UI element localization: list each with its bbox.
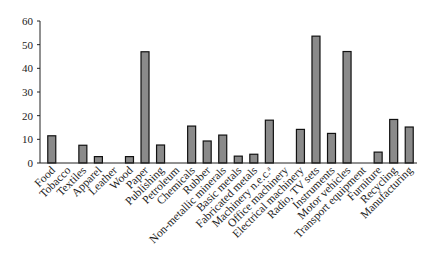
- bar: [48, 136, 56, 163]
- bar: [203, 141, 211, 163]
- bar: [125, 157, 133, 163]
- bar: [79, 145, 87, 163]
- bar: [265, 120, 273, 163]
- bar: [219, 135, 227, 163]
- bar: [405, 127, 413, 163]
- bar: [312, 36, 320, 163]
- y-tick-label: 0: [28, 157, 34, 169]
- bar: [328, 133, 336, 163]
- bar: [141, 52, 149, 163]
- x-axis-labels: FoodTobaccoTextilesApparelLeatherWoodPap…: [32, 163, 416, 245]
- y-tick-label: 50: [22, 39, 34, 51]
- y-axis: 0102030405060: [22, 15, 40, 169]
- y-tick-label: 10: [22, 133, 34, 145]
- bar: [188, 126, 196, 163]
- bar: [94, 157, 102, 163]
- bar: [157, 145, 165, 163]
- bar: [296, 129, 304, 163]
- y-tick-label: 60: [22, 15, 34, 27]
- y-tick-label: 40: [22, 62, 34, 74]
- bars: [48, 36, 413, 163]
- y-tick-label: 20: [22, 110, 34, 122]
- bar: [234, 156, 242, 163]
- bar: [343, 52, 351, 163]
- bar: [390, 119, 398, 163]
- bar: [250, 154, 258, 163]
- y-tick-label: 30: [22, 86, 34, 98]
- bar-chart: 0102030405060 FoodTobaccoTextilesApparel…: [0, 0, 439, 273]
- bar: [374, 152, 382, 163]
